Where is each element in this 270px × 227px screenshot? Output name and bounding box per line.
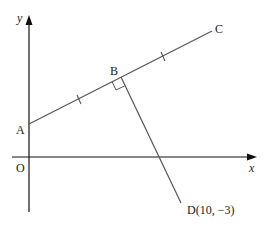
x-axis-arrow-icon <box>247 154 257 161</box>
origin-label: O <box>16 161 25 175</box>
point-d-label: D(10, −3) <box>187 203 234 217</box>
line-bd <box>121 77 181 203</box>
y-axis-arrow-icon <box>26 15 33 25</box>
point-a-label: A <box>16 123 25 137</box>
point-b-label: B <box>110 64 118 78</box>
line-ac <box>29 31 212 124</box>
right-angle-marker <box>112 82 125 91</box>
point-c-label: C <box>215 22 223 36</box>
x-axis-label-text: x <box>248 161 255 175</box>
y-axis-label: y <box>16 11 23 25</box>
geometry-diagram: y O A B C D(10, −3) x <box>0 0 270 227</box>
